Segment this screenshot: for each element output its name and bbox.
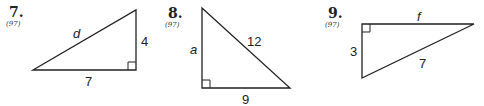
vertical-leg-label: a: [190, 42, 197, 57]
problem-reference: (97): [165, 21, 180, 29]
vertical-leg-label: 4: [141, 34, 148, 49]
problem-reference: (97): [6, 20, 21, 28]
right-triangle: [362, 24, 474, 78]
right-angle-marker: [128, 62, 136, 70]
horizontal-leg-label: 9: [242, 92, 249, 106]
horizontal-leg-label: f: [417, 9, 422, 24]
right-angle-marker: [362, 24, 370, 32]
problem-8: 8. (97) a 12 9: [165, 5, 290, 106]
hypotenuse-label: 12: [247, 34, 261, 49]
problem-number: 9.: [328, 5, 343, 21]
hypotenuse-label: 7: [419, 56, 426, 71]
problem-number: 7.: [9, 4, 24, 20]
right-triangle: [202, 8, 290, 88]
problem-9: 9. (97) f 3 7: [325, 5, 474, 78]
hypotenuse-label: d: [73, 26, 81, 41]
vertical-leg-label: 3: [350, 44, 357, 59]
problem-number: 8.: [168, 5, 183, 21]
right-angle-marker: [202, 80, 210, 88]
problem-7: 7. (97) d 4 7: [6, 4, 148, 89]
horizontal-leg-label: 7: [85, 74, 92, 89]
triangle-problems-diagram: 7. (97) d 4 7 8. (97) a 12 9 9. (97) f 3…: [0, 0, 484, 106]
right-triangle: [33, 10, 136, 70]
problem-reference: (97): [325, 21, 340, 29]
